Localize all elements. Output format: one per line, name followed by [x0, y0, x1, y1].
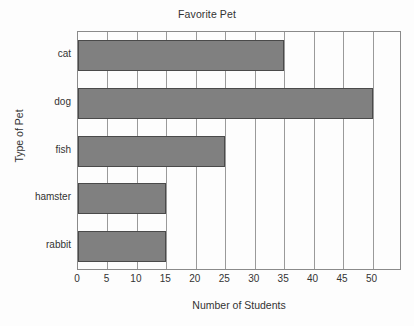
x-tick-25: 25 — [209, 273, 239, 284]
x-tick-50: 50 — [357, 273, 387, 284]
y-tick-rabbit: rabbit — [1, 239, 71, 250]
x-tick-5: 5 — [91, 273, 121, 284]
bar-dog[interactable] — [78, 88, 373, 119]
bar-slot-dog — [78, 80, 400, 128]
bar-slot-hamster — [78, 175, 400, 223]
y-tick-hamster: hamster — [1, 191, 71, 202]
bar-fish[interactable] — [78, 136, 225, 167]
bar-cat[interactable] — [78, 40, 284, 71]
y-tick-fish: fish — [1, 144, 71, 155]
x-tick-40: 40 — [298, 273, 328, 284]
plot-area — [77, 31, 401, 270]
x-tick-35: 35 — [268, 273, 298, 284]
x-tick-30: 30 — [239, 273, 269, 284]
y-tick-dog: dog — [1, 96, 71, 107]
bar-slot-fish — [78, 128, 400, 176]
x-tick-15: 15 — [150, 273, 180, 284]
x-tick-20: 20 — [180, 273, 210, 284]
bar-slot-cat — [78, 32, 400, 80]
y-tick-cat: cat — [1, 48, 71, 59]
bar-hamster[interactable] — [78, 183, 166, 214]
x-tick-45: 45 — [327, 273, 357, 284]
favorite-pet-bar-chart: Favorite Pet Type of Pet catdogfishhamst… — [0, 0, 414, 326]
chart-title: Favorite Pet — [0, 8, 414, 20]
x-tick-10: 10 — [121, 273, 151, 284]
bar-slot-rabbit — [78, 223, 400, 271]
x-axis-label: Number of Students — [77, 299, 401, 311]
x-tick-0: 0 — [62, 273, 92, 284]
bar-rabbit[interactable] — [78, 231, 166, 262]
